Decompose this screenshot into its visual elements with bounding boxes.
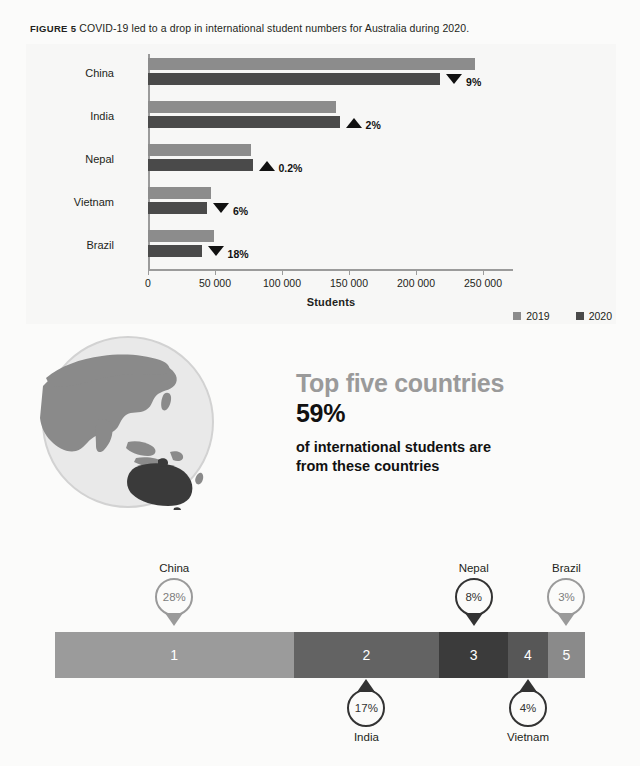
bar-2019-brazil [148, 230, 214, 242]
bar-2020-vietnam [148, 202, 207, 214]
x-axis-title: Students [26, 296, 636, 308]
bar-2020-china [148, 73, 440, 85]
bar-chart-panel: 050 000100 000150 000200 000250 000 9%2%… [26, 44, 616, 324]
share-segment-nepal: 3 [439, 632, 508, 678]
share-pin-percent-india: 17% [347, 689, 385, 727]
delta-label-india: 2% [366, 119, 381, 131]
x-tick [349, 269, 350, 275]
share-bar-panel: 12345 China28%17%IndiaNepal8%4%VietnamBr… [0, 512, 640, 766]
x-tick-label: 150 000 [330, 277, 368, 289]
share-pin-vietnam: 4%Vietnam [506, 679, 550, 743]
share-pin-label-india: India [344, 731, 388, 743]
delta-label-nepal: 0.2% [279, 162, 303, 174]
delta-arrow-down-vietnam [213, 203, 229, 213]
share-pin-percent-vietnam: 4% [509, 689, 547, 727]
share-pin-percent-china: 28% [155, 578, 193, 616]
delta-label-vietnam: 6% [233, 205, 248, 217]
delta-arrow-up-india [346, 118, 362, 128]
category-label-china: China [85, 67, 114, 79]
share-pin-label-china: China [152, 562, 196, 574]
bar-2019-nepal [148, 144, 251, 156]
share-segment-china: 1 [55, 632, 294, 678]
share-stacked-bar: 12345 [55, 632, 585, 678]
stat-figure: 59% [296, 399, 616, 428]
figure-number: FIGURE 5 [30, 23, 76, 34]
globe-icon [40, 334, 216, 510]
figure-caption: FIGURE 5 COVID-19 led to a drop in inter… [30, 22, 469, 34]
legend-item-2019: 2019 [513, 310, 549, 322]
delta-arrow-up-nepal [259, 161, 275, 171]
delta-arrow-down-brazil [208, 246, 224, 256]
delta-arrow-down-china [446, 74, 462, 84]
x-tick [416, 269, 417, 275]
share-pin-percent-brazil: 3% [547, 578, 585, 616]
chart-legend: 20192020 [26, 310, 626, 322]
x-tick [483, 269, 484, 275]
share-segment-brazil: 5 [548, 632, 585, 678]
bar-2019-china [148, 58, 475, 70]
x-tick-label: 200 000 [397, 277, 435, 289]
legend-swatch-2019 [513, 312, 521, 320]
figure-caption-text: COVID-19 led to a drop in international … [79, 22, 469, 34]
x-tick-label: 50 000 [199, 277, 231, 289]
legend-label-2019: 2019 [526, 310, 549, 322]
stat-heading: Top five countries [296, 370, 616, 398]
legend-item-2020: 2020 [576, 310, 612, 322]
bar-2020-nepal [148, 159, 253, 171]
category-label-india: India [90, 110, 114, 122]
share-segment-vietnam: 4 [508, 632, 548, 678]
share-pin-india: 17%India [344, 679, 388, 743]
x-tick [215, 269, 216, 275]
share-pin-point-china [165, 613, 183, 626]
share-pin-nepal: Nepal8% [452, 562, 496, 626]
category-label-nepal: Nepal [85, 153, 114, 165]
stat-description-line-2: from these countries [296, 457, 616, 476]
legend-swatch-2020 [576, 312, 584, 320]
share-pin-brazil: Brazil3% [544, 562, 588, 626]
category-label-vietnam: Vietnam [74, 196, 114, 208]
delta-label-china: 9% [466, 76, 481, 88]
legend-label-2020: 2020 [589, 310, 612, 322]
x-tick [148, 269, 149, 275]
bar-2020-india [148, 116, 340, 128]
share-pin-label-brazil: Brazil [544, 562, 588, 574]
bar-2020-brazil [148, 245, 202, 257]
category-label-brazil: Brazil [86, 239, 114, 251]
share-pin-point-nepal [465, 613, 483, 626]
share-pin-point-brazil [557, 613, 575, 626]
x-tick-label: 250 000 [464, 277, 502, 289]
x-tick-label: 100 000 [263, 277, 301, 289]
share-segment-india: 2 [294, 632, 440, 678]
bar-2019-vietnam [148, 187, 211, 199]
x-tick [282, 269, 283, 275]
share-pin-label-nepal: Nepal [452, 562, 496, 574]
stat-block: Top five countries 59% of international … [296, 370, 616, 477]
bar-2019-india [148, 101, 336, 113]
share-pin-china: China28% [152, 562, 196, 626]
delta-label-brazil: 18% [228, 248, 249, 260]
share-pin-label-vietnam: Vietnam [506, 731, 550, 743]
stat-description: of international students are from these… [296, 438, 616, 476]
stat-description-line-1: of international students are [296, 438, 616, 457]
x-axis-line [148, 269, 513, 271]
page-footer-strip [0, 758, 640, 766]
share-pin-percent-nepal: 8% [455, 578, 493, 616]
x-tick-label: 0 [145, 277, 151, 289]
